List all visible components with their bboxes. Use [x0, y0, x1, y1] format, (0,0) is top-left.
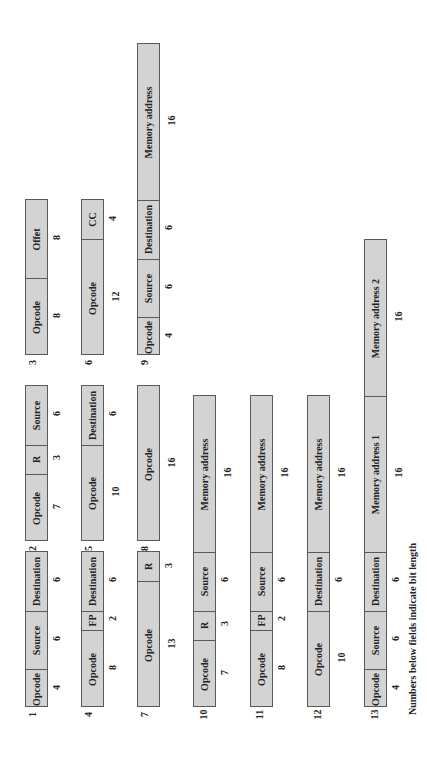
- bit-length-label: 6: [390, 577, 401, 582]
- field-offet: Offet: [26, 200, 47, 278]
- field-label: Opcode: [143, 448, 154, 481]
- field-label: Opcode: [143, 629, 154, 662]
- format-number-label: 13: [369, 710, 380, 720]
- format-number-label: 10: [198, 710, 209, 720]
- field-label: Source: [370, 626, 381, 655]
- field-destination: Destination: [308, 552, 329, 611]
- format-number-label: 7: [139, 712, 150, 717]
- field-r: R: [138, 552, 159, 581]
- format-3-box: OpcodeOffet: [25, 199, 48, 355]
- field-memory-address: Memory address: [138, 44, 159, 200]
- field-label: Destination: [370, 557, 381, 606]
- field-label: Destination: [87, 391, 98, 440]
- bit-length-label: 6: [107, 411, 118, 416]
- field-destination: Destination: [82, 552, 103, 611]
- bit-length-label: 6: [276, 577, 287, 582]
- field-label: Offet: [31, 228, 42, 250]
- format-number-label: 8: [139, 546, 150, 551]
- bit-length-label: 8: [276, 665, 287, 670]
- field-label: Opcode: [31, 301, 42, 334]
- bit-length-label: 7: [219, 670, 230, 675]
- format-13-box: OpcodeSourceDestinationMemory address 1M…: [364, 239, 387, 707]
- format-5-box: OpcodeDestination: [81, 385, 104, 541]
- field-opcode: Opcode: [365, 669, 386, 708]
- bit-length-label: 6: [390, 636, 401, 641]
- field-cc: CC: [82, 200, 103, 239]
- field-memory-address-1: Memory address 1: [365, 396, 386, 552]
- field-memory-address: Memory address: [308, 396, 329, 552]
- field-opcode: Opcode: [26, 669, 47, 708]
- field-label: Memory address: [313, 438, 324, 510]
- field-r: R: [26, 445, 47, 474]
- field-label: Memory address: [199, 438, 210, 510]
- bit-length-label: 4: [390, 685, 401, 690]
- format-number-label: 4: [83, 712, 94, 717]
- bit-length-label: 16: [279, 468, 290, 478]
- field-opcode: Opcode: [26, 278, 47, 356]
- bit-length-label: 8: [51, 313, 62, 318]
- field-r: R: [194, 611, 215, 640]
- bit-length-label: 6: [51, 636, 62, 641]
- bit-length-label: 2: [276, 616, 287, 621]
- field-label: FP: [256, 615, 267, 627]
- field-label: Opcode: [199, 658, 210, 691]
- field-label: CC: [87, 212, 98, 226]
- field-source: Source: [365, 611, 386, 670]
- bit-length-label: 6: [163, 284, 174, 289]
- field-memory-address-2: Memory address 2: [365, 240, 386, 396]
- field-label: R: [31, 456, 42, 463]
- field-opcode: Opcode: [26, 474, 47, 542]
- bit-length-label: 3: [219, 621, 230, 626]
- field-opcode: Opcode: [251, 630, 272, 708]
- field-opcode: Opcode: [308, 611, 329, 709]
- field-label: Source: [31, 401, 42, 430]
- bit-length-label: 6: [51, 577, 62, 582]
- bit-length-label: 6: [163, 225, 174, 230]
- bit-length-label: 2: [107, 616, 118, 621]
- bit-length-label: 4: [163, 333, 174, 338]
- field-source: Source: [194, 552, 215, 611]
- field-label: Opcode: [256, 653, 267, 686]
- bit-length-label: 7: [51, 504, 62, 509]
- field-opcode: Opcode: [82, 630, 103, 708]
- bit-length-label: 4: [107, 216, 118, 221]
- field-label: Opcode: [370, 673, 381, 706]
- field-source: Source: [251, 552, 272, 611]
- field-label: Destination: [143, 205, 154, 254]
- bit-length-label: 13: [166, 638, 177, 648]
- field-fp: FP: [251, 611, 272, 631]
- field-label: R: [199, 622, 210, 629]
- field-label: Source: [256, 567, 267, 596]
- field-label: Source: [199, 567, 210, 596]
- field-label: Destination: [313, 557, 324, 606]
- field-label: R: [143, 563, 154, 570]
- format-7-box: OpcodeR: [137, 551, 160, 707]
- bit-length-label: 6: [107, 577, 118, 582]
- format-1-box: OpcodeSourceDestination: [25, 551, 48, 707]
- bit-length-label: 16: [336, 468, 347, 478]
- field-label: Destination: [87, 557, 98, 606]
- bit-length-label: 16: [222, 468, 233, 478]
- field-label: Opcode: [31, 492, 42, 525]
- bit-length-label: 8: [107, 665, 118, 670]
- field-label: Memory address 1: [370, 435, 381, 514]
- bit-length-label: 16: [393, 312, 404, 322]
- field-label: Destination: [31, 557, 42, 606]
- format-number-label: 11: [254, 710, 265, 719]
- field-destination: Destination: [138, 200, 159, 259]
- field-memory-address: Memory address: [251, 396, 272, 552]
- format-number-label: 1: [27, 712, 38, 717]
- bit-length-label: 3: [51, 455, 62, 460]
- format-12-box: OpcodeDestinationMemory address: [307, 395, 330, 707]
- field-opcode: Opcode: [82, 445, 103, 543]
- bit-length-label: 8: [51, 235, 62, 240]
- bit-length-label: 16: [166, 458, 177, 468]
- bit-length-label: 12: [110, 291, 121, 301]
- field-label: Source: [143, 274, 154, 303]
- bit-length-label: 3: [163, 563, 174, 568]
- field-label: Memory address 2: [370, 278, 381, 357]
- field-label: Opcode: [313, 643, 324, 676]
- field-opcode: Opcode: [138, 386, 159, 542]
- field-label: Source: [31, 626, 42, 655]
- format-number-label: 12: [312, 710, 323, 720]
